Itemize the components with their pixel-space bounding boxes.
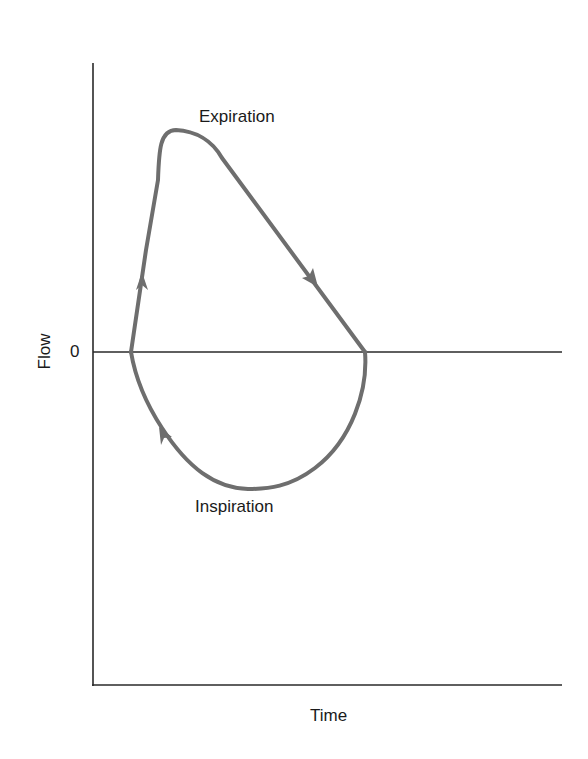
- y-zero-tick-label: 0: [70, 343, 79, 360]
- inspiration-curve: [131, 352, 365, 489]
- y-axis-label: Flow: [36, 330, 53, 374]
- flow-volume-diagram: [0, 0, 588, 759]
- expiration-label: Expiration: [199, 108, 275, 125]
- expiration-curve: [131, 130, 365, 352]
- inspiration-label: Inspiration: [195, 498, 273, 515]
- x-axis-label: Time: [310, 707, 347, 724]
